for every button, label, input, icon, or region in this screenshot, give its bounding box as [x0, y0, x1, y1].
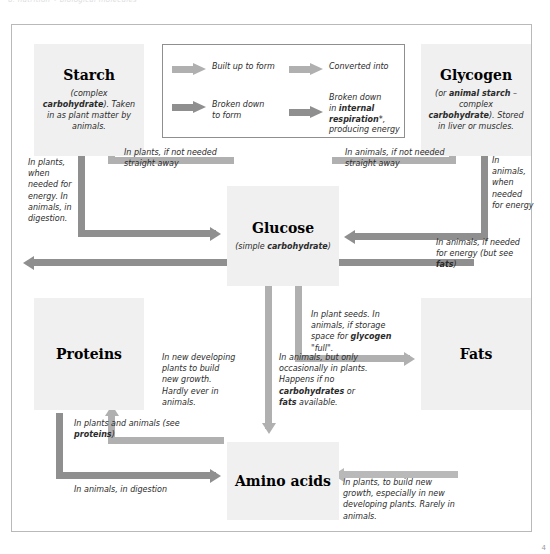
arrow-glucose-to-amino-vertical	[265, 277, 272, 429]
node-glucose-subtitle: (simple carbohydrate)	[235, 242, 331, 253]
legend-label-respiration: Broken downin internalrespiration*,produ…	[329, 93, 400, 136]
node-amino-acids[interactable]: Amino acids	[227, 442, 339, 520]
legend-item-built-up: Built up to form	[172, 62, 275, 76]
node-glycogen[interactable]: Glycogen (or animal starch – complex car…	[421, 44, 531, 156]
caption-glucose-to-glycogen: In animals, if not needed straight away	[345, 147, 449, 169]
arrow-proteins-to-amino-vertical	[56, 413, 63, 479]
node-glucose[interactable]: Glucose (simple carbohydrate)	[227, 186, 339, 286]
legend-label-broken-down: Broken downto form	[212, 100, 264, 122]
arrow-proteins-to-amino-head	[210, 469, 221, 483]
arrow-broken-down-icon	[172, 101, 206, 114]
node-glycogen-subtitle: (or animal starch – complex carbohydrate…	[427, 89, 525, 132]
legend-box: Built up to form Broken downto form Conv…	[162, 44, 405, 138]
legend-label-converted-into: Converted into	[329, 62, 389, 73]
node-proteins-title: Proteins	[56, 346, 122, 362]
caption-glucose-to-fats: In plant seeds. In animals, if storage s…	[311, 309, 395, 354]
diagram-frame: Starch (complex carbohydrate). Taken in …	[11, 24, 532, 532]
node-amino-acids-title: Amino acids	[235, 473, 331, 489]
page-top-cutoff-text: 6. nutrition • biological molecules	[8, 0, 248, 6]
arrow-glucose-to-fats-head	[404, 352, 415, 366]
arrow-glycogen-to-glucose-head	[344, 230, 355, 244]
legend-item-converted-into: Converted into	[289, 62, 389, 76]
arrow-respiration-icon	[289, 106, 323, 119]
arrow-glucose-to-amino-head	[262, 423, 276, 434]
node-fats-title: Fats	[460, 346, 493, 362]
caption-glucose-to-amino: In animals, but only occasionally in pla…	[279, 352, 371, 408]
arrow-converted-into-icon	[289, 63, 323, 76]
arrow-proteins-to-amino-horizontal	[56, 472, 216, 479]
caption-glycogen-to-glucose: In animals, when needed for energy	[492, 155, 534, 211]
caption-proteins-to-amino: In animals, in digestion	[74, 484, 204, 495]
node-starch-subtitle: (complex carbohydrate). Taken in as plan…	[40, 89, 138, 132]
arrow-glucose-respiration-head	[23, 256, 34, 270]
caption-glucose-to-starch: In plants, if not needed straight away	[124, 147, 226, 169]
legend-item-broken-down: Broken downto form	[172, 100, 264, 122]
caption-starch-to-glucose-left: In plants, when needed for energy. In an…	[28, 157, 80, 224]
legend-item-respiration: Broken downin internalrespiration*,produ…	[289, 93, 400, 136]
node-starch-title: Starch	[63, 67, 115, 83]
node-starch[interactable]: Starch (complex carbohydrate). Taken in …	[34, 44, 144, 156]
arrow-starch-to-glucose-head	[210, 227, 221, 241]
caption-fats-to-amino: In plants, to build new growth, especial…	[343, 477, 459, 522]
caption-amino-to-proteins: In plants and animals (see proteins)	[74, 418, 184, 440]
node-glycogen-title: Glycogen	[440, 67, 512, 83]
legend-label-built-up: Built up to form	[212, 62, 275, 73]
arrow-starch-to-glucose-horizontal	[78, 230, 216, 237]
arrow-glucose-to-fats-vertical	[295, 279, 302, 359]
node-glucose-title: Glucose	[252, 220, 314, 236]
node-fats[interactable]: Fats	[421, 298, 531, 410]
page-number: 4	[542, 544, 546, 552]
arrow-built-up-icon	[172, 63, 206, 76]
caption-amino-to-glucose: In new developing plants to build new gr…	[162, 352, 237, 408]
caption-glucose-respiration: In animals, if needed for energy (but se…	[436, 237, 528, 271]
node-proteins[interactable]: Proteins	[34, 298, 144, 410]
